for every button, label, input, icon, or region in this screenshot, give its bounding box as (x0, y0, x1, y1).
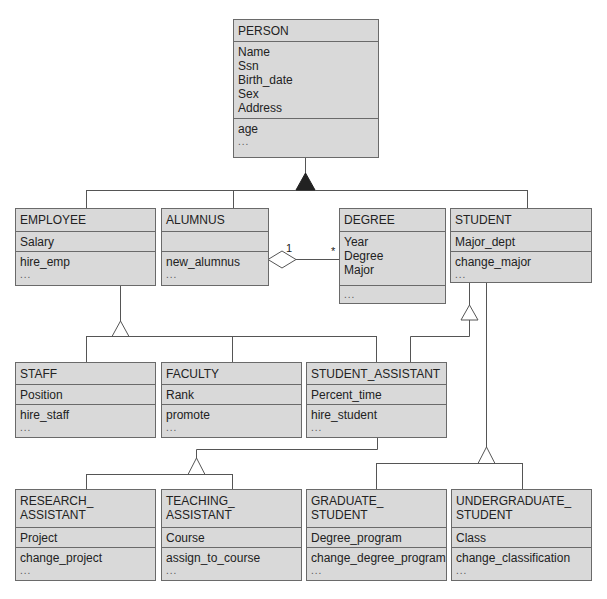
operation: new_alumnus (166, 255, 264, 269)
operations-section: hire_student ... (307, 404, 446, 437)
class-staff[interactable]: STAFF Position hire_staff ... (15, 362, 156, 438)
operations-section: age ... (234, 118, 378, 151)
attribute: Ssn (238, 59, 374, 73)
attributes-section: Class (452, 527, 591, 547)
operation-ellipsis: ... (311, 565, 442, 577)
class-name: UNDERGRADUATE_ STUDENT (452, 490, 591, 527)
attributes-section: Course (162, 527, 301, 547)
class-faculty[interactable]: FACULTY Rank promote ... (161, 362, 302, 438)
generalization-hollow-triangle-icon (478, 447, 495, 464)
operation-ellipsis: ... (20, 422, 151, 434)
generalization-hollow-triangle-icon (112, 321, 129, 337)
operations-section: assign_to_course ... (162, 547, 301, 580)
class-name-line: STUDENT (311, 508, 442, 522)
multiplicity-many: * (331, 245, 335, 257)
attribute: Class (456, 531, 587, 545)
attribute: Birth_date (238, 73, 374, 87)
class-name-line: ASSISTANT (166, 508, 297, 522)
class-name-line: ASSISTANT (20, 508, 151, 522)
operation-ellipsis: ... (20, 565, 151, 577)
attribute: Sex (238, 87, 374, 101)
class-name-line: STUDENT (456, 508, 587, 522)
attribute: Address (238, 101, 374, 115)
class-name: STUDENT_ASSISTANT (307, 363, 446, 384)
class-name-line: TEACHING_ (166, 494, 297, 508)
class-employee[interactable]: EMPLOYEE Salary hire_emp ... (15, 208, 156, 286)
class-degree[interactable]: DEGREE Year Degree Major ... (339, 208, 446, 304)
operations-section: change_degree_program ... (307, 547, 446, 580)
generalization-hollow-triangle-icon (188, 458, 205, 475)
class-student[interactable]: STUDENT Major_dept change_major ... (450, 208, 592, 283)
operations-section: promote ... (162, 404, 301, 437)
operation: assign_to_course (166, 551, 297, 565)
operations-section: change_classification ... (452, 547, 591, 580)
operations-section: hire_staff ... (16, 404, 155, 437)
class-name: STAFF (16, 363, 155, 384)
class-name-line: UNDERGRADUATE_ (456, 494, 587, 508)
operation-ellipsis: ... (344, 289, 441, 301)
attribute: Degree_program (311, 531, 442, 545)
class-name: GRADUATE_ STUDENT (307, 490, 446, 527)
attribute: Project (20, 531, 151, 545)
attributes-section: Position (16, 384, 155, 404)
class-person[interactable]: PERSON Name Ssn Birth_date Sex Address a… (233, 19, 379, 158)
attribute: Salary (20, 235, 151, 249)
operation-ellipsis: ... (166, 422, 297, 434)
attributes-section: Name Ssn Birth_date Sex Address (234, 41, 378, 118)
attribute: Name (238, 45, 374, 59)
generalization-filled-triangle-icon (296, 173, 315, 190)
attributes-section: Rank (162, 384, 301, 404)
operation: age (238, 122, 374, 136)
operation-ellipsis: ... (311, 422, 442, 434)
attributes-section: Salary (16, 231, 155, 251)
attribute: Year (344, 235, 441, 249)
operation: change_degree_program (311, 551, 442, 565)
class-alumnus[interactable]: ALUMNUS new_alumnus ... (161, 208, 269, 286)
class-name: STUDENT (451, 209, 591, 231)
attributes-section (162, 231, 268, 251)
class-graduate-student[interactable]: GRADUATE_ STUDENT Degree_program change_… (306, 489, 447, 581)
operation: change_project (20, 551, 151, 565)
operation: hire_staff (20, 408, 151, 422)
operation-ellipsis: ... (20, 269, 151, 281)
class-name: PERSON (234, 20, 378, 41)
attributes-section: Major_dept (451, 231, 591, 251)
attribute: Major_dept (455, 235, 587, 249)
operation-ellipsis: ... (166, 565, 297, 577)
class-undergraduate-student[interactable]: UNDERGRADUATE_ STUDENT Class change_clas… (451, 489, 592, 581)
operation: change_classification (456, 551, 587, 565)
attribute: Percent_time (311, 388, 442, 402)
operations-section: new_alumnus ... (162, 251, 268, 284)
attribute: Major (344, 263, 441, 277)
operations-section: change_major ... (451, 251, 591, 284)
attributes-section: Degree_program (307, 527, 446, 547)
operation: change_major (455, 255, 587, 269)
class-research-assistant[interactable]: RESEARCH_ ASSISTANT Project change_proje… (15, 489, 156, 581)
class-name-line: GRADUATE_ (311, 494, 442, 508)
attributes-section: Year Degree Major (340, 231, 445, 285)
operation-ellipsis: ... (166, 269, 264, 281)
operations-section: change_project ... (16, 547, 155, 580)
operations-section: hire_emp ... (16, 251, 155, 284)
operation-ellipsis: ... (455, 269, 587, 281)
attributes-section: Project (16, 527, 155, 547)
operation: promote (166, 408, 297, 422)
class-teaching-assistant[interactable]: TEACHING_ ASSISTANT Course assign_to_cou… (161, 489, 302, 581)
class-name: TEACHING_ ASSISTANT (162, 490, 301, 527)
class-name: ALUMNUS (162, 209, 268, 231)
multiplicity-one: 1 (286, 242, 292, 254)
operation: hire_student (311, 408, 442, 422)
class-name: FACULTY (162, 363, 301, 384)
operation-ellipsis: ... (238, 136, 374, 148)
generalization-hollow-triangle-icon (461, 305, 478, 320)
class-name-line: RESEARCH_ (20, 494, 151, 508)
attribute: Position (20, 388, 151, 402)
attribute: Degree (344, 249, 441, 263)
operations-section: ... (340, 285, 445, 304)
class-student-assistant[interactable]: STUDENT_ASSISTANT Percent_time hire_stud… (306, 362, 447, 438)
class-name: DEGREE (340, 209, 445, 231)
class-name: EMPLOYEE (16, 209, 155, 231)
attributes-section: Percent_time (307, 384, 446, 404)
operation: hire_emp (20, 255, 151, 269)
attribute: Course (166, 531, 297, 545)
